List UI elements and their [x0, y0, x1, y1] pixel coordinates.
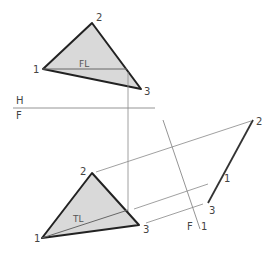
fold-label-h: H [16, 95, 24, 106]
aux-label-1: 1 [224, 173, 230, 184]
aux-label-3: 3 [209, 205, 215, 216]
front-label-1: 1 [34, 233, 40, 244]
fold-label-f: F [16, 110, 22, 121]
fold-label-f1-f: F [187, 221, 193, 232]
diagram-svg: 2 1 3 FL H F 2 1 3 TL 2 1 3 F 1 [0, 0, 279, 254]
aux-label-2: 2 [256, 116, 262, 127]
top-label-2: 2 [96, 12, 102, 23]
tl-label: TL [72, 214, 84, 224]
top-view-triangle [43, 23, 141, 89]
front-label-3: 3 [143, 224, 149, 235]
projector-1 [134, 184, 208, 209]
fold-line-f1 [163, 120, 200, 229]
edge-view-line [208, 120, 253, 203]
front-label-2: 2 [80, 166, 86, 177]
top-label-3: 3 [144, 86, 150, 97]
front-view-triangle [42, 173, 139, 238]
fold-label-f1-1: 1 [201, 221, 207, 232]
projector-2 [96, 121, 251, 172]
top-label-1: 1 [33, 64, 39, 75]
diagram-canvas: 2 1 3 FL H F 2 1 3 TL 2 1 3 F 1 [0, 0, 279, 254]
fl-label: FL [79, 59, 89, 69]
